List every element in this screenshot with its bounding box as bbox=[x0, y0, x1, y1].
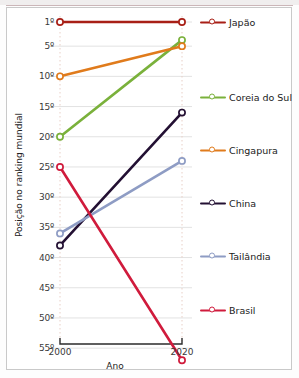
data-point-marker[interactable] bbox=[57, 134, 63, 140]
legend-marker-icon bbox=[200, 92, 226, 102]
data-point-marker[interactable] bbox=[57, 230, 63, 236]
x-tick-label: 2000 bbox=[35, 347, 85, 357]
legend-item[interactable]: Japão bbox=[200, 17, 255, 28]
legend-item[interactable]: Brasil bbox=[200, 305, 255, 316]
legend-marker-icon bbox=[200, 251, 226, 261]
legend-item[interactable]: China bbox=[200, 198, 256, 209]
data-point-marker[interactable] bbox=[179, 19, 185, 25]
y-tick-label: 20º bbox=[20, 132, 54, 142]
x-axis-label: Ano bbox=[40, 361, 190, 371]
legend-label: Japão bbox=[229, 17, 255, 28]
data-point-marker[interactable] bbox=[179, 110, 185, 116]
chart-legend: JapãoCoreia do SulCingapuraChinaTailândi… bbox=[200, 0, 299, 378]
y-tick-label: 25º bbox=[20, 162, 54, 172]
y-tick-label: 1º bbox=[20, 17, 54, 27]
legend-label: Coreia do Sul bbox=[229, 92, 292, 103]
legend-item[interactable]: Cingapura bbox=[200, 145, 278, 156]
y-tick-label: 35º bbox=[20, 222, 54, 232]
y-tick-label: 40º bbox=[20, 253, 54, 263]
data-point-marker[interactable] bbox=[57, 73, 63, 79]
data-point-marker[interactable] bbox=[57, 164, 63, 170]
y-tick-label: 45º bbox=[20, 283, 54, 293]
y-tick-label: 10º bbox=[20, 71, 54, 81]
data-point-marker[interactable] bbox=[57, 242, 63, 248]
y-axis-label: Posição no ranking mundial bbox=[14, 100, 24, 250]
y-tick-label: 50º bbox=[20, 313, 54, 323]
series-line bbox=[60, 113, 182, 246]
y-tick-label: 15º bbox=[20, 102, 54, 112]
legend-marker-icon bbox=[200, 17, 226, 27]
y-tick-label: 30º bbox=[20, 192, 54, 202]
data-point-marker[interactable] bbox=[179, 158, 185, 164]
legend-marker-icon bbox=[200, 305, 226, 315]
y-tick-label: 5º bbox=[20, 41, 54, 51]
legend-label: Brasil bbox=[229, 305, 255, 316]
legend-item[interactable]: Tailândia bbox=[200, 251, 271, 262]
series-line bbox=[60, 46, 182, 76]
data-point-marker[interactable] bbox=[57, 19, 63, 25]
legend-label: China bbox=[229, 198, 256, 209]
legend-label: Tailândia bbox=[229, 251, 271, 262]
legend-marker-icon bbox=[200, 145, 226, 155]
legend-label: Cingapura bbox=[229, 145, 278, 156]
legend-marker-icon bbox=[200, 198, 226, 208]
data-point-marker[interactable] bbox=[179, 43, 185, 49]
chart-card: 1º5º10º15º20º25º30º35º40º45º50º55º 20002… bbox=[0, 0, 299, 378]
y-axis-ticks: 1º5º10º15º20º25º30º35º40º45º50º55º bbox=[20, 0, 54, 378]
x-axis-line bbox=[60, 338, 182, 344]
legend-item[interactable]: Coreia do Sul bbox=[200, 92, 292, 103]
series-line bbox=[60, 40, 182, 137]
